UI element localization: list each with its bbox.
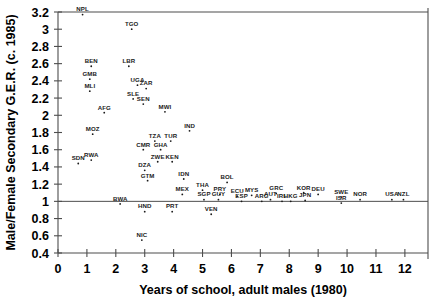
data-point	[89, 90, 91, 92]
data-point	[290, 200, 292, 202]
data-point	[141, 239, 143, 241]
data-point	[89, 78, 91, 80]
x-tick-label: 1	[83, 262, 90, 276]
data-point	[137, 84, 139, 86]
data-point	[170, 140, 172, 142]
x-tick-label: 4	[170, 262, 177, 276]
data-point-label: ESP	[235, 192, 248, 199]
y-tick-label: 2.2	[32, 92, 49, 106]
data-point-label: TUR	[164, 132, 177, 139]
data-point	[82, 14, 84, 16]
data-point-label: NPL	[76, 5, 89, 12]
data-point-label: TZA	[149, 132, 162, 139]
data-point-label: LBR	[122, 57, 135, 64]
data-point	[304, 200, 306, 202]
data-point-label: AUT	[264, 190, 277, 197]
data-point-label: DEU	[312, 185, 326, 192]
data-points-group	[77, 14, 404, 241]
data-point	[164, 111, 166, 113]
data-point-label: SDN	[72, 154, 85, 161]
data-point	[90, 65, 92, 67]
data-point-label: NOR	[353, 190, 367, 197]
data-point	[210, 213, 212, 215]
data-point	[157, 161, 159, 163]
y-tick-label: 2	[42, 109, 49, 123]
data-point-label: GHA	[154, 141, 168, 148]
data-point	[183, 178, 185, 180]
data-point	[218, 199, 220, 201]
data-point	[171, 211, 173, 213]
data-point-label: KEN	[166, 153, 179, 160]
data-point-label: IDN	[178, 170, 189, 177]
y-tick-label: 3	[42, 23, 49, 37]
plot-canvas: NPLTGOBENLBRGMBUGAZARMLISLESENAFGMWIINDM…	[0, 0, 440, 299]
data-point-label: MOZ	[86, 125, 100, 132]
data-point-label: MWI	[159, 103, 172, 110]
axes-group	[54, 8, 428, 259]
y-tick-label: 2.4	[32, 74, 49, 88]
data-point-label: JPN	[299, 191, 311, 198]
x-axis-title: Years of school, adult males (1980)	[139, 283, 347, 297]
x-tick-label: 8	[286, 262, 293, 276]
data-point	[77, 163, 79, 165]
data-point	[340, 202, 342, 204]
data-point	[171, 161, 173, 163]
x-tick-label: 11	[369, 262, 382, 276]
data-point-label: RWA	[84, 151, 99, 158]
data-point-label: CMR	[136, 141, 151, 148]
data-point	[103, 112, 105, 114]
scatter-plot-figure: NPLTGOBENLBRGMBUGAZARMLISLESENAFGMWIINDM…	[0, 0, 440, 299]
data-point	[142, 149, 144, 151]
data-point-label: BWA	[113, 195, 128, 202]
data-point-labels-group: NPLTGOBENLBRGMBUGAZARMLISLESENAFGMWIINDM…	[72, 5, 410, 238]
x-tick-label: 12	[398, 262, 412, 276]
x-tick-label: 5	[199, 262, 206, 276]
data-point	[281, 200, 283, 202]
data-point-label: GTM	[141, 172, 155, 179]
x-tick-label: 2	[112, 262, 119, 276]
data-point-label: ISR	[336, 194, 347, 201]
data-point	[147, 180, 149, 182]
data-point-label: THA	[196, 181, 209, 188]
data-point-label: SEN	[137, 95, 150, 102]
data-point	[251, 194, 253, 196]
axis-tick-labels-group: 0.40.60.811.21.41.61.822.22.42.62.833.20…	[32, 6, 412, 277]
data-point	[160, 149, 162, 151]
data-point	[145, 88, 147, 90]
data-point-label: SGP	[197, 190, 210, 197]
data-point	[270, 199, 272, 201]
data-point-label: PRT	[166, 202, 179, 209]
data-point	[226, 182, 228, 184]
y-tick-label: 0.6	[32, 229, 49, 243]
y-axis-title: Male/Female Secondary G.E.R. (c. 1985)	[4, 14, 18, 250]
x-tick-label: 10	[340, 262, 354, 276]
data-point	[131, 28, 133, 30]
data-point	[391, 199, 393, 201]
x-tick-label: 9	[315, 262, 322, 276]
data-point-label: BEN	[85, 57, 98, 64]
data-point	[144, 211, 146, 213]
x-tick-label: 0	[55, 262, 62, 276]
y-tick-label: 1	[42, 195, 49, 209]
data-point	[142, 103, 144, 105]
data-point	[92, 133, 94, 135]
data-point-label: NIC	[136, 231, 147, 238]
data-point-label: ZWE	[151, 153, 165, 160]
data-point-label: KOR	[297, 184, 311, 191]
data-point-label: NZL	[397, 190, 409, 197]
y-tick-label: 0.8	[32, 212, 49, 226]
data-point-label: DZA	[138, 161, 151, 168]
y-tick-label: 3.2	[32, 6, 49, 20]
data-point	[203, 199, 205, 201]
x-tick-label: 6	[228, 262, 235, 276]
data-point	[128, 65, 130, 67]
data-point	[241, 200, 243, 202]
data-point	[90, 159, 92, 161]
y-tick-label: 1.6	[32, 143, 49, 157]
data-point-label: BOL	[221, 173, 234, 180]
data-point-label: HND	[138, 202, 152, 209]
data-point-label: HKG	[284, 192, 298, 199]
data-point-label: VEN	[205, 205, 218, 212]
y-tick-label: 1.4	[32, 160, 49, 174]
data-point-label: GMB	[83, 70, 98, 77]
